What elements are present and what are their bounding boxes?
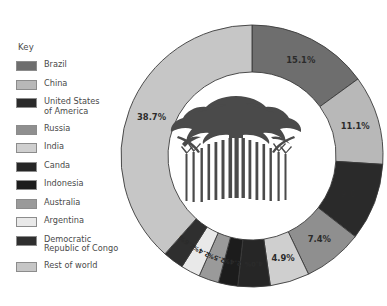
donut-segments [121,25,383,287]
legend-item[interactable]: Rest of world [16,261,120,272]
legend-item-label: Indonesia [44,179,84,189]
donut-segment-label: 11.1% [341,121,371,131]
legend-item-label: Brazil [44,60,67,70]
legend-swatch [16,98,37,108]
legend-swatch [16,236,37,246]
donut-segment-label: 4.9% [271,253,295,263]
donut-segment-label: 7.4% [308,234,332,244]
legend-swatch [16,61,37,71]
donut-segment-label: 9.6% [341,189,365,199]
legend-title: Key [18,42,120,52]
legend-swatch [16,162,37,172]
donut-segment-label: 4.0% [244,260,263,268]
legend-item[interactable]: Indonesia [16,179,120,190]
legend-item-label: Australia [44,198,80,208]
chart-page: Key BrazilChinaUnited States of AmericaR… [0,0,387,306]
legend-item[interactable]: United States of America [16,97,120,116]
legend-swatch [16,217,37,227]
donut-chart: 15.1%11.1%9.6%7.4%4.9%4.0%2.4%2.5%2.4%2.… [118,8,386,304]
legend-item[interactable]: Canda [16,161,120,172]
legend: Key BrazilChinaUnited States of AmericaR… [16,42,120,280]
legend-item[interactable]: India [16,142,120,153]
donut-segment-label: 15.1% [286,55,316,65]
legend-item-label: Democratic Republic of Congo [44,235,118,254]
legend-item-label: United States of America [44,97,99,116]
legend-swatch [16,80,37,90]
donut-segment[interactable] [121,25,252,254]
legend-item[interactable]: China [16,79,120,90]
legend-item[interactable]: Democratic Republic of Congo [16,235,120,254]
donut-segment-label: 38.7% [137,112,167,122]
legend-item[interactable]: Australia [16,198,120,209]
legend-items: BrazilChinaUnited States of AmericaRussi… [16,60,120,272]
legend-item-label: India [44,142,64,152]
donut-chart-svg: 15.1%11.1%9.6%7.4%4.9%4.0%2.4%2.5%2.4%2.… [118,8,386,304]
legend-item[interactable]: Russia [16,124,120,135]
legend-swatch [16,262,37,272]
legend-item[interactable]: Argentina [16,216,120,227]
legend-item-label: Rest of world [44,261,97,271]
legend-swatch [16,199,37,209]
legend-item-label: Russia [44,124,70,134]
legend-swatch [16,125,37,135]
legend-item-label: Canda [44,161,70,171]
legend-item-label: Argentina [44,216,84,226]
legend-item[interactable]: Brazil [16,60,120,71]
legend-swatch [16,143,37,153]
legend-swatch [16,180,37,190]
legend-item-label: China [44,79,67,89]
